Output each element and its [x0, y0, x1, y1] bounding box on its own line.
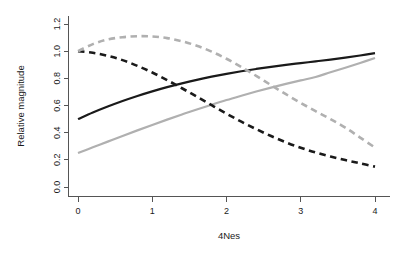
y-tick-label-0.0: 0.0: [52, 181, 62, 194]
x-tick-label-0: 0: [75, 206, 80, 216]
y-tick-label-0.4: 0.4: [52, 126, 62, 139]
y-axis-title: Relative magnitude: [15, 65, 26, 146]
y-tick-label-0.6: 0.6: [52, 99, 62, 112]
relative-magnitude-line-chart: 0.00.20.40.60.81.01.2 01234 Relative mag…: [0, 0, 409, 261]
x-tick-label-4: 4: [372, 206, 377, 216]
y-tick-label-0.2: 0.2: [52, 154, 62, 167]
y-tick-label-0.8: 0.8: [52, 72, 62, 85]
y-tick-label-1.2: 1.2: [52, 18, 62, 31]
x-axis-title: 4Nes: [218, 230, 240, 241]
x-tick-label-1: 1: [150, 206, 155, 216]
x-tick-label-3: 3: [298, 206, 303, 216]
x-tick-label-2: 2: [224, 206, 229, 216]
chart-figure: 0.00.20.40.60.81.01.2 01234 Relative mag…: [0, 0, 409, 261]
y-tick-label-1.0: 1.0: [52, 45, 62, 58]
